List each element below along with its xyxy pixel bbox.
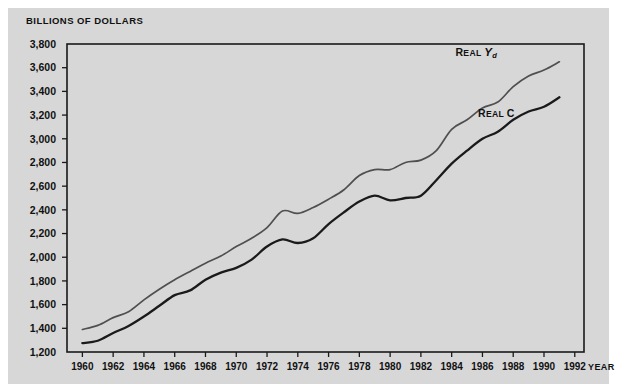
series-annotation-real-yd: REAL Yd (455, 46, 497, 60)
x-tick-label: 1964 (133, 361, 156, 372)
x-tick-label: 1970 (225, 361, 248, 372)
line-chart: 3,8003,6003,4003,2003,0002,8002,6002,400… (0, 0, 617, 392)
series-annotation-real-c: REAL C (478, 107, 515, 119)
figure-container: BILLIONS OF DOLLARS 3,8003,6003,4003,200… (0, 0, 617, 392)
x-tick-label: 1980 (379, 361, 402, 372)
x-tick-label: 1974 (287, 361, 310, 372)
y-tick-label: 1,600 (30, 298, 56, 310)
x-tick-label: 1986 (471, 361, 494, 372)
y-tick-label: 2,600 (30, 180, 56, 192)
x-tick-label: 1978 (348, 361, 371, 372)
x-tick-label: 1972 (256, 361, 279, 372)
y-tick-label: 2,200 (30, 227, 56, 239)
x-tick-label: 1982 (410, 361, 433, 372)
y-tick-label: 1,400 (30, 322, 56, 334)
y-tick-label: 1,200 (30, 346, 56, 358)
x-tick-label: 1984 (441, 361, 464, 372)
y-tick-label: 2,800 (30, 156, 56, 168)
x-tick-label: 1992 (564, 361, 587, 372)
y-tick-label: 3,400 (30, 85, 56, 97)
x-axis-label: YEAR (588, 362, 615, 372)
x-tick-label: 1968 (194, 361, 217, 372)
y-tick-label: 2,000 (30, 251, 56, 263)
y-tick-label: 2,400 (30, 204, 56, 216)
x-tick-label: 1988 (502, 361, 525, 372)
x-tick-label: 1976 (317, 361, 340, 372)
y-tick-label: 3,000 (30, 133, 56, 145)
x-tick-label: 1960 (71, 361, 94, 372)
y-tick-label: 3,800 (30, 38, 56, 50)
x-tick-label: 1990 (533, 361, 556, 372)
x-tick-label: 1966 (164, 361, 187, 372)
x-tick-label: 1962 (102, 361, 125, 372)
plot-frame (67, 44, 584, 352)
series-line-real-c (82, 97, 559, 343)
y-tick-label: 3,200 (30, 109, 56, 121)
y-tick-label: 3,600 (30, 61, 56, 73)
series-line-real-yd (82, 62, 559, 330)
y-tick-label: 1,800 (30, 275, 56, 287)
